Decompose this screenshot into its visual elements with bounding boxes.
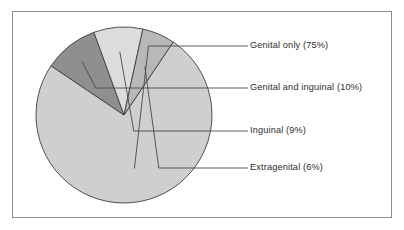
pie-chart-figure: Genital only (75%) Genital and inguinal … (0, 0, 404, 230)
pie-slices-group (36, 27, 212, 203)
pie-chart-canvas (0, 0, 404, 230)
pie-label-extragenital: Extragenital (6%) (250, 162, 323, 172)
pie-label-genital-only: Genital only (75%) (250, 40, 328, 50)
pie-label-inguinal: Inguinal (9%) (250, 125, 306, 135)
pie-label-genital-and-inguinal: Genital and inguinal (10%) (250, 82, 362, 92)
